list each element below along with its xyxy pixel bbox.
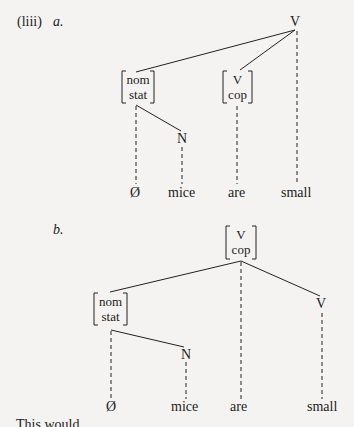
- a-leaf-are: are: [228, 186, 245, 200]
- a-leaf-null: Ø: [130, 186, 140, 200]
- b-root-v-cop-node: V cop: [228, 227, 254, 257]
- b-nom-stat-node: nom stat: [96, 294, 125, 324]
- b-leaf-mice: mice: [171, 400, 198, 414]
- feature-stat: stat: [124, 87, 152, 102]
- feature-cop: cop: [228, 242, 254, 257]
- b-leaf-are: are: [230, 400, 247, 414]
- example-number: (liii): [17, 15, 42, 29]
- a-v-cop-node: V cop: [225, 72, 250, 102]
- dependency-tree-lines: [0, 0, 354, 427]
- feature-nom: nom: [96, 294, 125, 309]
- example-b-label: b.: [53, 223, 64, 237]
- feature-v: V: [225, 72, 250, 87]
- b-leaf-null: Ø: [106, 400, 116, 414]
- b-leaf-small: small: [307, 400, 337, 414]
- a-leaf-mice: mice: [168, 186, 195, 200]
- example-a-label: a.: [53, 15, 64, 29]
- feature-stat: stat: [96, 309, 125, 324]
- feature-v: V: [228, 227, 254, 242]
- a-leaf-small: small: [281, 186, 311, 200]
- b-n-node: N: [181, 348, 191, 362]
- b-v-node: V: [316, 297, 326, 311]
- feature-nom: nom: [124, 72, 152, 87]
- following-text-fragment: This would: [16, 417, 79, 427]
- diagram-page: (liii) a. V nom stat V cop N Ø mice are …: [0, 0, 354, 427]
- a-root-v-node: V: [290, 15, 300, 29]
- a-nom-stat-node: nom stat: [124, 72, 152, 102]
- feature-cop: cop: [225, 87, 250, 102]
- a-n-node: N: [177, 132, 187, 146]
